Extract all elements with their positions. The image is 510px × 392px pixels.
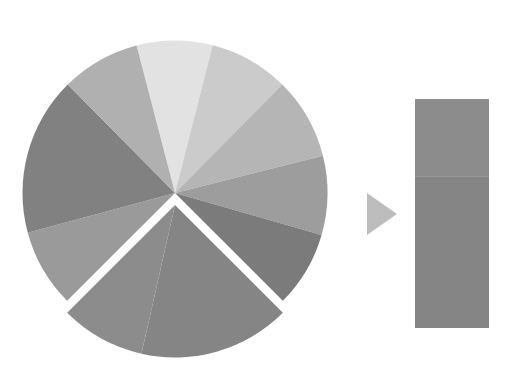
arrow-right-icon <box>367 193 397 235</box>
bar-segment-2 <box>415 177 489 328</box>
bar-segment-1 <box>415 99 489 177</box>
pie-of-bar-chart <box>0 0 510 392</box>
breakout-stacked-bar <box>415 99 489 328</box>
